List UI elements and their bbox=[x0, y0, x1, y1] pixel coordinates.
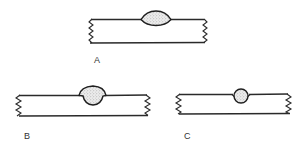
panel-label-b: B bbox=[24, 132, 30, 141]
plate-a-bottom bbox=[90, 43, 205, 44]
plate-c-bottom bbox=[179, 114, 290, 115]
plate-c-top-right bbox=[249, 94, 288, 95]
break-line-icon bbox=[176, 94, 181, 114]
panel-a bbox=[89, 11, 207, 43]
break-line-icon bbox=[89, 19, 93, 43]
break-line-icon bbox=[286, 94, 291, 114]
panel-b bbox=[16, 86, 150, 116]
panel-label-a: A bbox=[94, 56, 100, 65]
weld-diagram bbox=[0, 0, 302, 152]
weld-nugget-circle bbox=[234, 89, 248, 103]
panel-c bbox=[176, 89, 291, 114]
weld-bead-cap bbox=[79, 86, 106, 105]
break-line-icon bbox=[203, 19, 207, 43]
plate-b-top-right bbox=[105, 95, 147, 96]
break-line-icon bbox=[145, 95, 150, 116]
panel-label-c: C bbox=[184, 132, 191, 141]
plate-b-bottom bbox=[19, 116, 148, 117]
break-line-icon bbox=[16, 95, 21, 116]
weld-bead-lens bbox=[141, 11, 171, 26]
